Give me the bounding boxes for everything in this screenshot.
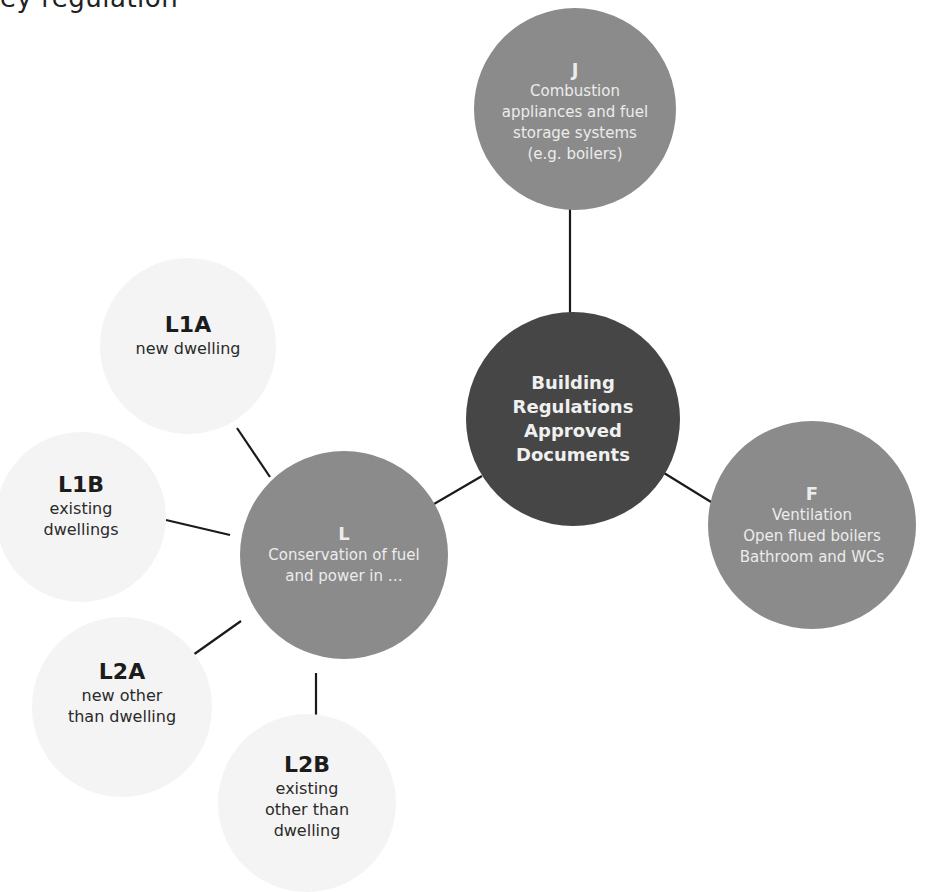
node-l1b-existing-dwellings: L1B existing dwellings bbox=[0, 432, 166, 602]
edge-l-l2a bbox=[193, 621, 241, 655]
node-description: new other than dwelling bbox=[58, 685, 186, 727]
node-code: L2A bbox=[99, 659, 145, 685]
node-l1a-new-dwelling: L1A new dwelling bbox=[100, 258, 276, 434]
node-l2b-existing-other-than-dwelling: L2B existing other than dwelling bbox=[218, 714, 396, 892]
node-description: Ventilation Open flued boilers Bathroom … bbox=[732, 505, 893, 568]
node-description: Combustion appliances and fuel storage s… bbox=[494, 81, 657, 165]
node-description: Conservation of fuel and power in … bbox=[260, 545, 427, 587]
hub-node-building-regulations: Building Regulations Approved Documents bbox=[466, 312, 680, 526]
node-code: F bbox=[806, 483, 818, 505]
node-description: new dwelling bbox=[126, 338, 251, 359]
node-code: L1A bbox=[165, 312, 211, 338]
node-code: L2B bbox=[284, 752, 330, 778]
node-f-ventilation: F Ventilation Open flued boilers Bathroo… bbox=[708, 421, 916, 629]
hub-title: Building Regulations Approved Documents bbox=[498, 371, 648, 467]
node-code: L bbox=[338, 523, 349, 545]
edge-l-l1b bbox=[166, 520, 230, 535]
node-description: existing dwellings bbox=[33, 498, 128, 540]
node-j-combustion: J Combustion appliances and fuel storage… bbox=[474, 8, 676, 210]
edge-l-l1a bbox=[237, 428, 270, 477]
node-l-conservation: L Conservation of fuel and power in … bbox=[240, 451, 448, 659]
node-l2a-new-other-than-dwelling: L2A new other than dwelling bbox=[32, 617, 212, 797]
node-description: existing other than dwelling bbox=[255, 778, 359, 841]
node-code: L1B bbox=[58, 472, 104, 498]
node-code: J bbox=[572, 59, 579, 81]
